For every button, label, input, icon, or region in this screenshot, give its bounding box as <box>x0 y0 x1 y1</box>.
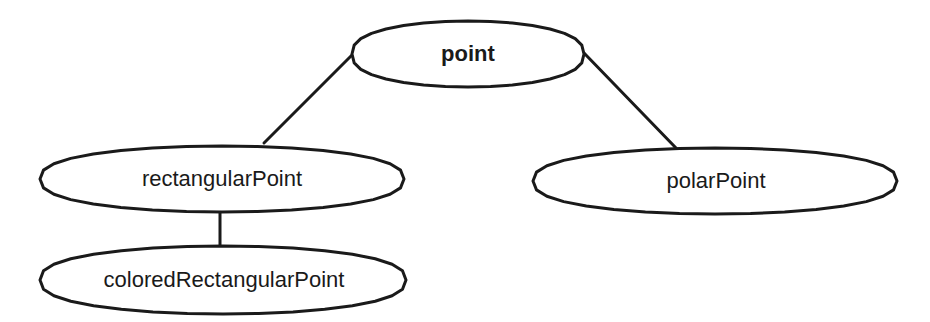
edge-point-to-rectangularPoint <box>264 55 352 143</box>
node-label-polar-point: polarPoint <box>666 168 765 194</box>
node-label-point: point <box>441 41 495 67</box>
node-label-rectangular-point: rectangularPoint <box>142 166 302 192</box>
edge-point-to-polarPoint <box>584 53 676 148</box>
node-label-colored-rectangular-point: coloredRectangularPoint <box>104 267 345 293</box>
class-hierarchy-diagram: point rectangularPoint polarPoint colore… <box>0 0 930 322</box>
